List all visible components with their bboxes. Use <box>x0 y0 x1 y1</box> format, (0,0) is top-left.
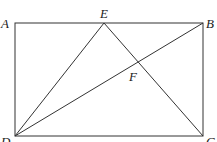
label-e: E <box>99 6 108 21</box>
label-d: D <box>0 134 11 142</box>
label-a: A <box>0 16 9 31</box>
geometry-diagram: A E B F D C <box>0 0 217 142</box>
label-b: B <box>206 16 214 31</box>
segment-db <box>15 23 203 136</box>
segment-ec <box>104 23 203 136</box>
label-f: F <box>128 69 138 84</box>
segment-de <box>15 23 104 136</box>
label-c: C <box>206 134 215 142</box>
